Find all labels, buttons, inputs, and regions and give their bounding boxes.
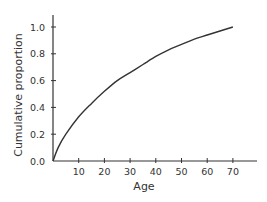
y-tick-label: 1.0 bbox=[30, 22, 45, 33]
line-chart: 0.00.20.40.60.81.010203040506070 Age Cum… bbox=[0, 0, 267, 202]
y-tick-label: 0.8 bbox=[30, 48, 45, 59]
y-tick-label: 0.2 bbox=[30, 129, 45, 140]
ticks: 0.00.20.40.60.81.010203040506070 bbox=[30, 22, 239, 178]
x-tick-label: 50 bbox=[175, 166, 187, 177]
y-tick-label: 0.4 bbox=[30, 102, 45, 113]
x-tick-label: 30 bbox=[124, 166, 136, 177]
x-tick-label: 40 bbox=[150, 166, 162, 177]
x-tick-label: 20 bbox=[98, 166, 110, 177]
x-tick-label: 70 bbox=[227, 166, 239, 177]
chart: 0.00.20.40.60.81.010203040506070 Age Cum… bbox=[0, 0, 267, 202]
plot-area bbox=[53, 27, 233, 161]
y-axis-label: Cumulative proportion bbox=[12, 33, 25, 157]
x-axis-label: Age bbox=[133, 180, 155, 193]
x-tick-label: 60 bbox=[201, 166, 213, 177]
series-line bbox=[53, 27, 233, 161]
axes bbox=[53, 15, 257, 161]
y-tick-label: 0.0 bbox=[30, 156, 45, 167]
x-tick-label: 10 bbox=[73, 166, 85, 177]
y-tick-label: 0.6 bbox=[30, 75, 45, 86]
